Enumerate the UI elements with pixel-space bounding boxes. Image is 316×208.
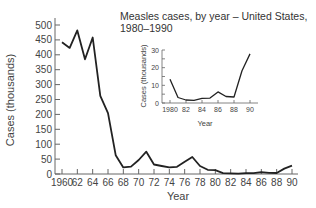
x-tick-label: 84 <box>240 177 252 188</box>
y-tick-label: 450 <box>35 34 52 45</box>
inset-x-axis-title: Year <box>197 119 213 128</box>
x-tick-label: 80 <box>210 177 222 188</box>
inset-x-tick-label: 1980 <box>162 106 178 113</box>
x-axis-title: Year <box>167 190 190 202</box>
inset-y-tick-label: 30 <box>151 47 159 54</box>
y-tick-label: 100 <box>35 139 52 150</box>
y-tick-label: 50 <box>41 154 53 165</box>
inset-x-tick-label: 84 <box>198 106 206 113</box>
x-tick-label: 86 <box>256 177 268 188</box>
main-series-line <box>62 30 292 173</box>
y-tick-label: 300 <box>35 79 52 90</box>
x-tick-label: 74 <box>164 177 176 188</box>
x-tick-label: 82 <box>225 177 237 188</box>
x-tick-label: 64 <box>87 177 99 188</box>
inset-y-axis-title: Cases (thousands) <box>139 44 148 107</box>
inset-x-tick-label: 88 <box>230 106 238 113</box>
inset-title-line2: 1980–1990 <box>120 22 173 34</box>
measles-chart: 0501001502002503003504004505001960626466… <box>0 0 316 208</box>
x-tick-label: 88 <box>271 177 283 188</box>
inset-y-tick-label: 10 <box>151 82 159 89</box>
inset-y-tick-label: 0 <box>155 100 159 107</box>
y-tick-label: 500 <box>35 20 52 31</box>
x-tick-label: 70 <box>133 177 145 188</box>
x-tick-label: 62 <box>72 177 84 188</box>
y-tick-label: 350 <box>35 64 52 75</box>
y-tick-label: 250 <box>35 94 52 105</box>
inset-x-tick-label: 90 <box>246 106 254 113</box>
y-tick-label: 150 <box>35 124 52 135</box>
inset-x-tick-label: 82 <box>182 106 190 113</box>
y-tick-label: 200 <box>35 109 52 120</box>
x-tick-label: 78 <box>194 177 206 188</box>
inset-y-tick-label: 20 <box>151 64 159 71</box>
inset-title-line1: Measles cases, by year – United States, <box>120 10 307 22</box>
x-tick-label: 72 <box>148 177 160 188</box>
y-tick-label: 400 <box>35 49 52 60</box>
inset-series-line <box>170 54 250 100</box>
x-tick-label: 76 <box>179 177 191 188</box>
chart-canvas: 0501001502002503003504004505001960626466… <box>0 0 316 208</box>
main-line <box>62 30 292 173</box>
inset-x-tick-label: 86 <box>214 106 222 113</box>
x-tick-label: 68 <box>118 177 130 188</box>
x-tick-label: 66 <box>102 177 114 188</box>
inset-line <box>170 54 250 100</box>
x-tick-label: 1960 <box>51 177 74 188</box>
inset-axes: 010203019808284868890 <box>151 47 258 114</box>
x-tick-label: 90 <box>286 177 298 188</box>
y-axis-title: Cases (thousands) <box>4 54 16 146</box>
